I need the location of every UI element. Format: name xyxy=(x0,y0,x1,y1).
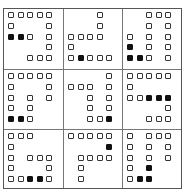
filled-square-icon xyxy=(137,176,143,182)
puzzle-cell-r0c2 xyxy=(123,9,181,70)
filled-square-icon xyxy=(18,34,24,40)
puzzle-cell-r2c2 xyxy=(123,130,181,188)
outlined-square-icon xyxy=(37,73,43,79)
outlined-square-icon xyxy=(146,144,152,150)
outlined-square-icon xyxy=(87,95,93,101)
outlined-square-icon xyxy=(46,95,52,101)
outlined-square-icon xyxy=(68,34,74,40)
puzzle-cell-r0c0 xyxy=(4,9,64,70)
outlined-square-icon xyxy=(8,105,14,111)
outlined-square-icon xyxy=(8,73,14,79)
puzzle-cell-r2c0 xyxy=(4,130,64,188)
outlined-square-icon xyxy=(156,12,162,18)
outlined-square-icon xyxy=(97,133,103,139)
outlined-square-icon xyxy=(97,55,103,61)
outlined-square-icon xyxy=(137,73,143,79)
outlined-square-icon xyxy=(165,116,171,122)
outlined-square-icon xyxy=(146,55,152,61)
outlined-square-icon xyxy=(106,55,112,61)
outlined-square-icon xyxy=(146,155,152,161)
outlined-square-icon xyxy=(87,55,93,61)
outlined-square-icon xyxy=(18,12,24,18)
outlined-square-icon xyxy=(165,144,171,150)
mini-grid xyxy=(68,73,116,127)
outlined-square-icon xyxy=(27,105,33,111)
outlined-square-icon xyxy=(146,73,152,79)
outlined-square-icon xyxy=(127,73,133,79)
outlined-square-icon xyxy=(8,144,14,150)
outlined-square-icon xyxy=(8,155,14,161)
filled-square-icon xyxy=(18,116,24,122)
filled-square-icon xyxy=(137,55,143,61)
filled-square-icon xyxy=(106,116,112,122)
outlined-square-icon xyxy=(37,155,43,161)
outlined-square-icon xyxy=(46,44,52,50)
filled-square-icon xyxy=(146,176,152,182)
outlined-square-icon xyxy=(146,133,152,139)
outlined-square-icon xyxy=(46,55,52,61)
outlined-square-icon xyxy=(8,95,14,101)
mini-grid xyxy=(8,12,56,66)
outlined-square-icon xyxy=(97,116,103,122)
mini-grid xyxy=(127,12,175,66)
outlined-square-icon xyxy=(46,165,52,171)
outlined-square-icon xyxy=(127,155,133,161)
outlined-square-icon xyxy=(78,176,84,182)
outlined-square-icon xyxy=(46,12,52,18)
outlined-square-icon xyxy=(27,12,33,18)
outlined-square-icon xyxy=(68,133,74,139)
filled-square-icon xyxy=(127,44,133,50)
outlined-square-icon xyxy=(87,84,93,90)
outlined-square-icon xyxy=(18,176,24,182)
puzzle-cell-r0c1 xyxy=(64,9,123,70)
outlined-square-icon xyxy=(156,133,162,139)
outlined-square-icon xyxy=(146,12,152,18)
filled-square-icon xyxy=(8,116,14,122)
outlined-square-icon xyxy=(165,44,171,50)
outlined-square-icon xyxy=(87,105,93,111)
outlined-square-icon xyxy=(27,95,33,101)
outlined-square-icon xyxy=(127,165,133,171)
outlined-square-icon xyxy=(165,105,171,111)
mini-grid xyxy=(68,12,116,66)
outlined-square-icon xyxy=(27,55,33,61)
puzzle-cell-r1c1 xyxy=(64,70,123,130)
outlined-square-icon xyxy=(97,155,103,161)
outlined-square-icon xyxy=(18,133,24,139)
outlined-square-icon xyxy=(46,23,52,29)
outlined-square-icon xyxy=(68,44,74,50)
filled-square-icon xyxy=(127,55,133,61)
mini-grid xyxy=(127,133,175,187)
outlined-square-icon xyxy=(106,155,112,161)
outlined-square-icon xyxy=(106,105,112,111)
outlined-square-icon xyxy=(37,12,43,18)
mini-grid xyxy=(8,133,56,187)
outlined-square-icon xyxy=(156,116,162,122)
outlined-square-icon xyxy=(127,144,133,150)
outlined-square-icon xyxy=(165,34,171,40)
outlined-square-icon xyxy=(165,155,171,161)
filled-square-icon xyxy=(165,95,171,101)
outlined-square-icon xyxy=(8,133,14,139)
outlined-square-icon xyxy=(127,84,133,90)
outlined-square-icon xyxy=(165,73,171,79)
outlined-square-icon xyxy=(46,34,52,40)
outlined-square-icon xyxy=(146,44,152,50)
filled-square-icon xyxy=(78,55,84,61)
outlined-square-icon xyxy=(18,73,24,79)
outlined-square-icon xyxy=(87,116,93,122)
puzzle-grid xyxy=(3,8,182,189)
filled-square-icon xyxy=(8,34,14,40)
outlined-square-icon xyxy=(87,155,93,161)
outlined-square-icon xyxy=(165,23,171,29)
outlined-square-icon xyxy=(78,84,84,90)
outlined-square-icon xyxy=(127,95,133,101)
puzzle-cell-r1c2 xyxy=(123,70,181,130)
outlined-square-icon xyxy=(37,55,43,61)
filled-square-icon xyxy=(156,95,162,101)
outlined-square-icon xyxy=(106,95,112,101)
outlined-square-icon xyxy=(146,34,152,40)
filled-square-icon xyxy=(146,165,152,171)
outlined-square-icon xyxy=(87,133,93,139)
outlined-square-icon xyxy=(127,176,133,182)
